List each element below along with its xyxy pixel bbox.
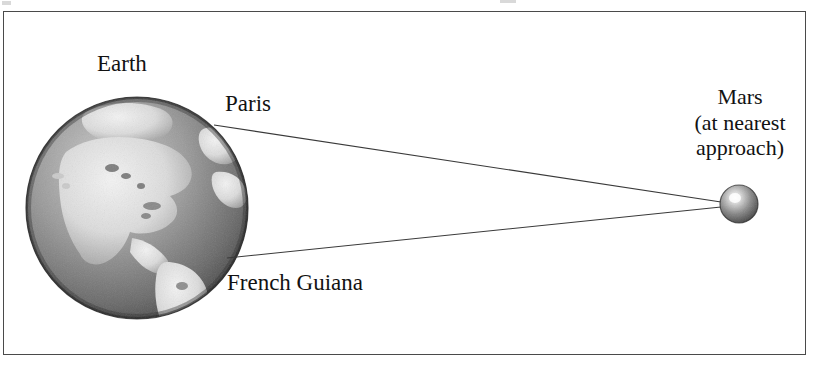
earth-globe	[26, 97, 248, 336]
label-mars-line2: (at nearest	[672, 110, 808, 136]
mars-body	[720, 185, 758, 223]
label-mars-line3: approach)	[672, 135, 808, 161]
sight-lines	[214, 125, 721, 258]
label-mars: Mars (at nearest approach)	[672, 84, 808, 161]
label-mars-line1: Mars	[672, 84, 808, 110]
label-french-guiana: French Guiana	[227, 271, 363, 294]
figure-root: Earth Paris French Guiana Mars (at neare…	[0, 0, 815, 370]
sight-line-french-guiana	[227, 207, 721, 258]
label-earth: Earth	[97, 52, 147, 75]
earth-landmasses	[26, 97, 248, 336]
sight-line-paris	[214, 125, 721, 202]
label-paris: Paris	[225, 92, 271, 115]
